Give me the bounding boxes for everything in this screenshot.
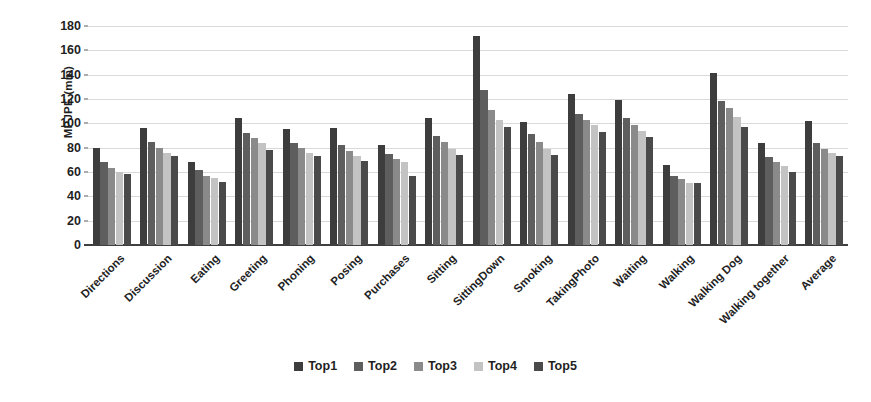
bar[interactable] — [568, 94, 575, 245]
bar[interactable] — [425, 118, 432, 245]
bar[interactable] — [646, 137, 653, 245]
bar[interactable] — [378, 145, 385, 245]
bar[interactable] — [385, 154, 392, 245]
bar[interactable] — [306, 153, 313, 245]
bar[interactable] — [163, 153, 170, 245]
bar[interactable] — [670, 176, 677, 245]
bar[interactable] — [496, 120, 503, 245]
bar[interactable] — [211, 178, 218, 245]
bar-group[interactable] — [658, 26, 706, 245]
bar-group[interactable] — [516, 26, 564, 245]
bar[interactable] — [456, 155, 463, 245]
bar[interactable] — [741, 127, 748, 245]
legend-item[interactable]: Top1 — [294, 360, 337, 373]
bar-group[interactable] — [468, 26, 516, 245]
bar[interactable] — [314, 156, 321, 245]
bar[interactable] — [765, 157, 772, 245]
bar[interactable] — [773, 162, 780, 245]
bar[interactable] — [258, 143, 265, 245]
bar[interactable] — [188, 162, 195, 245]
bar[interactable] — [726, 108, 733, 245]
bar-group[interactable] — [88, 26, 136, 245]
bar[interactable] — [805, 121, 812, 245]
bar[interactable] — [361, 161, 368, 245]
bar[interactable] — [599, 132, 606, 245]
legend-item[interactable]: Top2 — [354, 360, 397, 373]
bar[interactable] — [156, 148, 163, 245]
bar[interactable] — [290, 143, 297, 245]
bar[interactable] — [710, 73, 717, 245]
bar[interactable] — [441, 142, 448, 245]
bar[interactable] — [171, 156, 178, 245]
bar[interactable] — [93, 148, 100, 245]
bar[interactable] — [686, 183, 693, 245]
bar[interactable] — [330, 128, 337, 245]
bar[interactable] — [813, 143, 820, 245]
bar[interactable] — [298, 148, 305, 245]
bar-group[interactable] — [611, 26, 659, 245]
bar[interactable] — [504, 127, 511, 245]
bar[interactable] — [694, 183, 701, 245]
bar[interactable] — [346, 151, 353, 245]
bar[interactable] — [638, 131, 645, 245]
bar[interactable] — [551, 155, 558, 245]
bar[interactable] — [480, 90, 487, 245]
bar[interactable] — [266, 150, 273, 245]
bar[interactable] — [733, 117, 740, 245]
bar[interactable] — [283, 129, 290, 245]
legend-item[interactable]: Top3 — [414, 360, 457, 373]
bar[interactable] — [203, 176, 210, 245]
bar[interactable] — [718, 101, 725, 245]
bar[interactable] — [828, 153, 835, 245]
bar-group[interactable] — [183, 26, 231, 245]
bar[interactable] — [781, 166, 788, 245]
bar[interactable] — [448, 149, 455, 245]
bar[interactable] — [235, 118, 242, 245]
bar[interactable] — [124, 174, 131, 245]
bar[interactable] — [543, 149, 550, 245]
bar[interactable] — [536, 142, 543, 245]
bar[interactable] — [575, 114, 582, 245]
bar[interactable] — [401, 162, 408, 245]
bar[interactable] — [520, 122, 527, 245]
bar[interactable] — [583, 120, 590, 245]
bar[interactable] — [353, 156, 360, 245]
bar[interactable] — [836, 156, 843, 245]
bar[interactable] — [615, 100, 622, 245]
bar[interactable] — [140, 128, 147, 245]
bar-group[interactable] — [753, 26, 801, 245]
bar[interactable] — [108, 168, 115, 245]
bar[interactable] — [116, 172, 123, 245]
legend-item[interactable]: Top5 — [534, 360, 577, 373]
bar[interactable] — [243, 133, 250, 245]
bar-group[interactable] — [136, 26, 184, 245]
bar-group[interactable] — [706, 26, 754, 245]
bar-group[interactable] — [421, 26, 469, 245]
bar[interactable] — [195, 170, 202, 245]
bar[interactable] — [528, 134, 535, 245]
bar[interactable] — [678, 179, 685, 245]
bar[interactable] — [338, 145, 345, 245]
bar-group[interactable] — [231, 26, 279, 245]
legend-item[interactable]: Top4 — [474, 360, 517, 373]
bar[interactable] — [409, 176, 416, 245]
bar[interactable] — [219, 182, 226, 245]
bar[interactable] — [488, 110, 495, 245]
bar[interactable] — [758, 143, 765, 245]
bar[interactable] — [148, 142, 155, 245]
bar-group[interactable] — [278, 26, 326, 245]
bar[interactable] — [100, 162, 107, 245]
bar[interactable] — [393, 159, 400, 245]
bar-group[interactable] — [563, 26, 611, 245]
bar[interactable] — [251, 138, 258, 245]
bar[interactable] — [631, 125, 638, 245]
bar[interactable] — [821, 149, 828, 245]
bar[interactable] — [591, 125, 598, 245]
bar[interactable] — [433, 136, 440, 246]
bar-group[interactable] — [801, 26, 849, 245]
bar[interactable] — [789, 172, 796, 245]
bar-group[interactable] — [373, 26, 421, 245]
bar-group[interactable] — [326, 26, 374, 245]
bar[interactable] — [663, 165, 670, 245]
bar[interactable] — [623, 118, 630, 245]
